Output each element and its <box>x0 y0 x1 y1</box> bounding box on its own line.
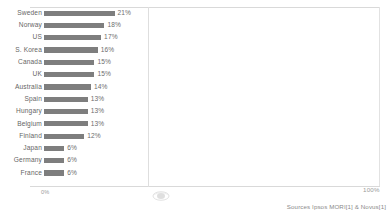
bar-row: Hungary13% <box>0 105 390 117</box>
bar-track: 13% <box>44 93 390 105</box>
bar <box>44 109 88 114</box>
bar-track: 6% <box>44 142 390 154</box>
category-label: S. Korea <box>0 47 44 54</box>
bar <box>44 84 91 89</box>
bar-value-label: 14% <box>94 84 108 91</box>
bar-row: US17% <box>0 32 390 44</box>
bar-value-label: 15% <box>97 71 111 78</box>
bar-track: 15% <box>44 56 390 68</box>
bar-value-label: 13% <box>91 96 105 103</box>
bar-value-label: 6% <box>67 170 77 177</box>
bar-track: 13% <box>44 105 390 117</box>
x-axis-min-label: 0% <box>41 189 50 195</box>
bar-track: 17% <box>44 32 390 44</box>
oval-logo-watermark-icon <box>152 188 170 200</box>
bar-track: 15% <box>44 68 390 80</box>
bar-track: 14% <box>44 81 390 93</box>
x-axis-max-label: 100% <box>363 186 380 193</box>
category-label: Japan <box>0 145 44 152</box>
category-label: Australia <box>0 84 44 91</box>
bar-track: 21% <box>44 7 390 19</box>
bar <box>44 97 88 102</box>
bar-value-label: 12% <box>87 133 101 140</box>
bar <box>44 158 64 163</box>
category-label: Germany <box>0 157 44 164</box>
bar-track: 13% <box>44 118 390 130</box>
bar-row: Sweden21% <box>0 7 390 19</box>
bar-chart: Sweden21%Norway18%US17%S. Korea16%Canada… <box>0 0 390 221</box>
bar <box>44 134 84 139</box>
bar-row: S. Korea16% <box>0 44 390 56</box>
bar-value-label: 6% <box>67 145 77 152</box>
bar-row: Japan6% <box>0 142 390 154</box>
bar-value-label: 21% <box>118 10 132 17</box>
bar-value-label: 15% <box>97 59 111 66</box>
bar-row: Spain13% <box>0 93 390 105</box>
bar-row: Finland12% <box>0 130 390 142</box>
source-attribution: Sources Ipsos MORI[1] & Novus[1] <box>287 203 386 210</box>
bar-track: 6% <box>44 167 390 179</box>
bar <box>44 72 94 77</box>
category-label: Hungary <box>0 108 44 115</box>
bar-row: France6% <box>0 167 390 179</box>
category-label: Canada <box>0 59 44 66</box>
category-label: Sweden <box>0 10 44 17</box>
bar <box>44 35 101 40</box>
bar-row: Australia14% <box>0 81 390 93</box>
bar-track: 6% <box>44 155 390 167</box>
bar-row: Belgium13% <box>0 118 390 130</box>
bar-row: Canada15% <box>0 56 390 68</box>
bar <box>44 11 115 16</box>
bar-value-label: 13% <box>91 121 105 128</box>
bar-value-label: 18% <box>107 22 121 29</box>
x-axis-labels: 0% 100% <box>0 189 390 199</box>
bar-row: UK15% <box>0 68 390 80</box>
bar-track: 12% <box>44 130 390 142</box>
bar <box>44 121 88 126</box>
category-label: UK <box>0 71 44 78</box>
bar <box>44 60 94 65</box>
bar-value-label: 6% <box>67 157 77 164</box>
bar-value-label: 16% <box>101 47 115 54</box>
bar <box>44 47 98 52</box>
bar-rows: Sweden21%Norway18%US17%S. Korea16%Canada… <box>0 7 390 187</box>
bar <box>44 170 64 175</box>
category-label: Belgium <box>0 121 44 128</box>
category-label: Finland <box>0 133 44 140</box>
bar-value-label: 17% <box>104 34 118 41</box>
category-label: US <box>0 34 44 41</box>
bar-value-label: 13% <box>91 108 105 115</box>
bar <box>44 146 64 151</box>
category-label: Spain <box>0 96 44 103</box>
bar-track: 16% <box>44 44 390 56</box>
bar-row: Norway18% <box>0 19 390 31</box>
category-label: Norway <box>0 22 44 29</box>
bar <box>44 23 104 28</box>
bar-track: 18% <box>44 19 390 31</box>
category-label: France <box>0 170 44 177</box>
bar-row: Germany6% <box>0 155 390 167</box>
